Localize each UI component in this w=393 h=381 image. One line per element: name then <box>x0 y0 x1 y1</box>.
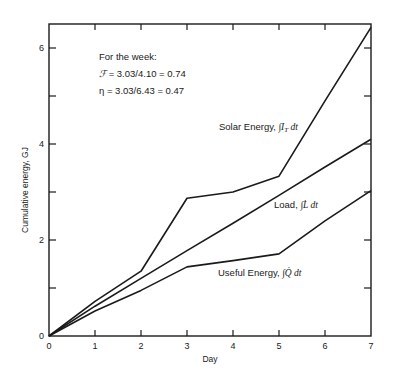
load-label: Load, ∫L̇ dt <box>274 199 318 211</box>
x-tick-2: 2 <box>138 341 143 351</box>
useful-energy-label: Useful Energy, ∫Q̇ dt <box>218 267 302 279</box>
plot-frame <box>49 24 371 336</box>
x-tick-0: 0 <box>46 341 51 351</box>
y-axis-label: Cumulative energy, GJ <box>20 147 30 233</box>
solar-fraction-value: = 3.03/4.10 = 0.74 <box>106 68 186 79</box>
y-tick-0: 0 <box>39 331 44 341</box>
solar-energy-label: Solar Energy, ∫IT dt <box>219 121 298 134</box>
y-tick-2: 2 <box>39 235 44 245</box>
y-tick-6: 6 <box>39 43 44 53</box>
chart: 0 1 2 3 4 5 6 7 0 2 4 6 Day Cumulative e… <box>0 0 393 381</box>
efficiency-value: = 3.03/6.43 = 0.47 <box>104 85 184 96</box>
x-tick-labels: 0 1 2 3 4 5 6 7 <box>46 341 373 351</box>
summary-heading: For the week: <box>99 51 157 62</box>
weekly-summary-annotation: For the week: ℱ = 3.03/4.10 = 0.74 η = 3… <box>99 51 186 96</box>
x-tick-5: 5 <box>276 341 281 351</box>
efficiency-line: η = 3.03/6.43 = 0.47 <box>99 85 184 96</box>
y-tick-4: 4 <box>39 139 44 149</box>
x-tick-3: 3 <box>184 341 189 351</box>
solar-fraction-line: ℱ = 3.03/4.10 = 0.74 <box>99 68 186 79</box>
series-load <box>49 139 371 336</box>
x-tick-1: 1 <box>92 341 97 351</box>
x-tick-7: 7 <box>368 341 373 351</box>
x-tick-4: 4 <box>230 341 235 351</box>
series-solar-energy <box>49 27 371 336</box>
x-tick-6: 6 <box>322 341 327 351</box>
series-useful-energy <box>49 191 371 336</box>
y-tick-labels: 0 2 4 6 <box>39 43 44 341</box>
x-axis-label: Day <box>202 354 218 364</box>
